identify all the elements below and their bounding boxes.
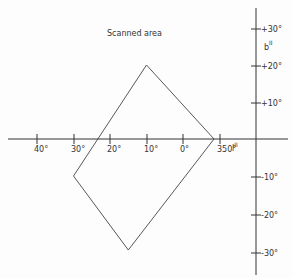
longitude-tick-label: 10° (144, 145, 158, 154)
longitude-ticks: 40°30°20°10°0°350° (34, 134, 236, 154)
diagram-canvas: 40°30°20°10°0°350° +30°+20°+10°-10°-20°-… (0, 0, 292, 278)
latitude-tick-label: -30° (261, 249, 278, 258)
latitude-tick-label: -20° (261, 211, 278, 220)
latitude-tick-label: -10° (261, 173, 278, 182)
scanned-region-polygon (74, 65, 215, 250)
latitude-axis-label: bII (264, 39, 273, 52)
longitude-tick-label: 30° (71, 145, 85, 154)
latitude-tick-label: +10° (261, 99, 282, 108)
longitude-tick-label: 40° (34, 145, 48, 154)
latitude-tick-label: +20° (261, 62, 282, 71)
longitude-tick-label: 20° (107, 145, 121, 154)
longitude-tick-label: 0° (180, 145, 189, 154)
diagram-title: Scanned area (107, 29, 162, 38)
latitude-tick-label: +30° (261, 25, 282, 34)
scanned-area-diagram: 40°30°20°10°0°350° +30°+20°+10°-10°-20°-… (0, 0, 292, 278)
